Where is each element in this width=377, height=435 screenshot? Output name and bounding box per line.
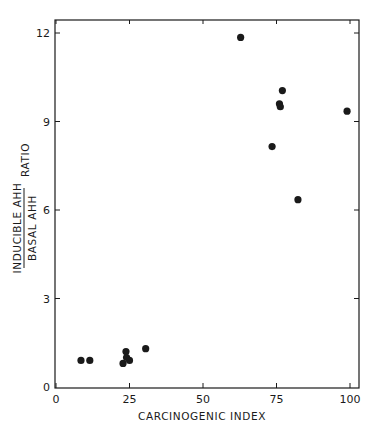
data-points	[77, 34, 350, 367]
x-tick-label: 0	[53, 393, 60, 406]
data-point	[237, 34, 244, 41]
y-tick-label: 9	[43, 116, 50, 129]
y-axis-label-denominator: BASAL AHH	[26, 195, 38, 261]
x-axis-ticks: 0255075100	[53, 20, 361, 406]
y-axis-label-numerator: INDUCIBLE AHH	[11, 183, 23, 274]
data-point	[277, 103, 284, 110]
data-point	[294, 196, 301, 203]
data-point	[86, 357, 93, 364]
y-tick-label: 6	[43, 204, 50, 217]
plot-frame	[55, 20, 359, 388]
x-tick-label: 25	[123, 393, 137, 406]
data-point	[279, 87, 286, 94]
scatter-chart: 0255075100 036912 CARCINOGENIC INDEX IND…	[0, 0, 377, 435]
y-tick-label: 12	[36, 27, 50, 40]
x-axis-label: CARCINOGENIC INDEX	[138, 410, 266, 422]
y-axis-ticks: 036912	[36, 27, 359, 394]
x-tick-label: 100	[340, 393, 361, 406]
y-axis-label-suffix: RATIO	[19, 143, 31, 177]
x-tick-label: 75	[270, 393, 284, 406]
y-tick-label: 0	[43, 381, 50, 394]
data-point	[343, 108, 350, 115]
y-tick-label: 3	[43, 293, 50, 306]
data-point	[77, 357, 84, 364]
plot-border	[55, 20, 359, 388]
x-tick-label: 50	[196, 393, 210, 406]
data-point	[268, 143, 275, 150]
data-point	[126, 357, 133, 364]
data-point	[142, 345, 149, 352]
y-axis-label: INDUCIBLE AHH BASAL AHH RATIO	[11, 143, 38, 273]
